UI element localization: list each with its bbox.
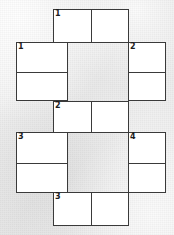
answer-cell[interactable] — [129, 163, 165, 193]
answer-cell[interactable] — [129, 72, 165, 101]
answer-box-middle[interactable]: 2 — [53, 101, 129, 133]
answer-cell[interactable]: 1 — [17, 43, 67, 72]
answer-cell[interactable] — [17, 163, 67, 193]
answer-cell[interactable] — [17, 72, 67, 101]
answer-cell[interactable]: 3 — [17, 133, 67, 163]
answer-cell[interactable] — [91, 102, 128, 132]
answer-box-left-lower[interactable]: 3 — [16, 132, 68, 193]
puzzle-page: 1 1 2 2 — [0, 0, 174, 235]
answer-cell[interactable]: 4 — [129, 133, 165, 163]
answer-cell[interactable] — [91, 193, 128, 225]
answer-cell[interactable]: 2 — [54, 102, 91, 132]
clue-number: 4 — [130, 132, 136, 142]
clue-number: 3 — [55, 192, 61, 202]
answer-cell[interactable]: 2 — [129, 43, 165, 72]
answer-box-right-lower[interactable]: 4 — [128, 132, 166, 193]
answer-box-left-upper[interactable]: 1 — [16, 42, 68, 101]
answer-box-right-upper[interactable]: 2 — [128, 42, 166, 101]
clue-number: 1 — [55, 9, 61, 19]
clue-number: 1 — [18, 42, 24, 52]
answer-box-bottom[interactable]: 3 — [53, 192, 129, 226]
clue-number: 2 — [55, 101, 61, 111]
clue-number: 3 — [18, 132, 24, 142]
answer-box-top[interactable]: 1 — [53, 9, 129, 43]
answer-cell[interactable]: 3 — [54, 193, 91, 225]
answer-cell[interactable] — [91, 10, 128, 42]
answer-cell[interactable]: 1 — [54, 10, 91, 42]
clue-number: 2 — [130, 42, 136, 52]
